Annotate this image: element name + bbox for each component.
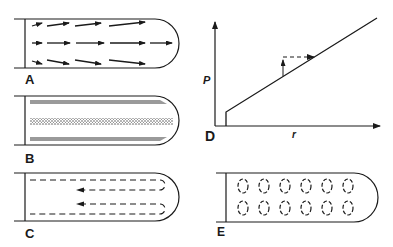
grey-band-bottom xyxy=(30,137,167,141)
panel-d: P r D xyxy=(203,18,380,144)
panel-label-c: C xyxy=(25,226,35,241)
vortex-cells xyxy=(238,179,353,215)
dotted-particle-band xyxy=(30,118,173,125)
grey-band-top xyxy=(30,100,167,104)
axes xyxy=(215,22,380,126)
panel-label-a: A xyxy=(25,72,35,87)
recirculation-streamlines xyxy=(30,180,165,214)
flow-arrowheads xyxy=(76,188,84,207)
panel-b: B xyxy=(14,96,179,166)
panel-e: E xyxy=(216,173,378,239)
panel-label-d: D xyxy=(205,128,215,144)
velocity-arrows xyxy=(32,22,172,64)
figure-canvas: A B C xyxy=(0,0,393,247)
pressure-line xyxy=(226,18,377,126)
x-axis-label: r xyxy=(292,129,297,140)
panel-c: C xyxy=(14,173,179,241)
y-axis-label: P xyxy=(203,74,211,86)
panel-label-e: E xyxy=(217,225,225,239)
panel-label-b: B xyxy=(25,151,34,166)
panel-a: A xyxy=(14,19,179,87)
